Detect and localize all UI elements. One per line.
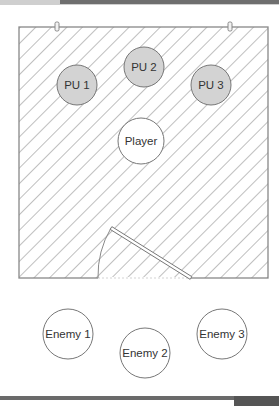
powerup-3-label: PU 3: [198, 79, 224, 91]
player-token: Player: [118, 118, 164, 164]
enemy-1: Enemy 1: [43, 309, 93, 359]
player-token-label: Player: [125, 135, 158, 147]
enemy-2-label: Enemy 2: [122, 347, 167, 359]
enemies: Enemy 1Enemy 2Enemy 3: [43, 309, 247, 378]
powerup-2: PU 2: [124, 47, 164, 87]
bottom-edge-bar: [0, 396, 279, 400]
enemy-2: Enemy 2: [120, 328, 170, 378]
enemy-3: Enemy 3: [197, 309, 247, 359]
powerup-1-label: PU 1: [64, 79, 90, 91]
game-map: PU 1PU 2PU 3 Player Enemy 1Enemy 2Enemy …: [0, 0, 279, 406]
powerup-3: PU 3: [191, 65, 231, 105]
powerup-1: PU 1: [57, 65, 97, 105]
bottom-edge-tail: [234, 396, 279, 406]
enemy-3-label: Enemy 3: [199, 328, 244, 340]
wall-marker: [55, 22, 59, 31]
wall-marker: [228, 22, 232, 31]
powerup-2-label: PU 2: [131, 61, 157, 73]
player: Player: [118, 118, 164, 164]
enemy-1-label: Enemy 1: [45, 328, 90, 340]
